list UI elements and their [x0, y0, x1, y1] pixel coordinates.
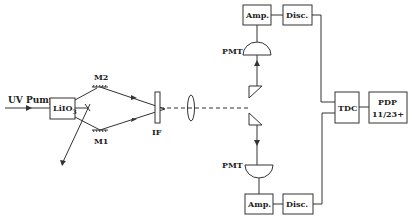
pdp-label-line1: PDP: [378, 97, 397, 107]
interference-filter: [155, 92, 160, 123]
optical-setup-diagram: UV Pump LiIO3 M2 M1 IF PMT Amp.: [0, 0, 415, 222]
uv-pump-label: UV Pump: [8, 95, 55, 105]
disc-top-label: Disc.: [286, 10, 308, 20]
mirror-m2: [92, 85, 108, 87]
rejected-beam-arrow: [60, 160, 66, 166]
filter-label: IF: [152, 127, 162, 137]
mirror-m1: [92, 130, 108, 132]
amp-top-label: Amp.: [245, 10, 269, 20]
prism-top: [249, 86, 262, 98]
prism-bottom: [249, 113, 262, 125]
mirror-m1-label: M1: [94, 136, 108, 146]
pmt-top: [243, 42, 271, 55]
amp-bottom-label: Amp.: [247, 199, 271, 209]
pmt-top-label: PMT: [222, 46, 243, 56]
pdp-label-line2: 11/23+: [372, 109, 404, 119]
tdc-label: TDC: [338, 103, 357, 113]
disc-top-to-tdc: [312, 15, 335, 102]
beam-to-m2: [75, 88, 97, 100]
pmt-bottom-label: PMT: [222, 160, 243, 170]
disc-bottom-to-tdc: [313, 113, 335, 204]
uv-pump-beam: [5, 105, 50, 111]
pmt-bottom: [245, 165, 273, 178]
disc-bottom-label: Disc.: [286, 199, 308, 209]
mirror-m2-label: M2: [94, 72, 108, 82]
